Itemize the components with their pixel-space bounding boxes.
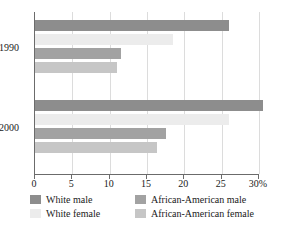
bar xyxy=(35,48,121,59)
legend-item[interactable]: White male xyxy=(30,194,135,205)
x-axis-tick-10: 10 xyxy=(104,178,114,189)
y-axis-label-2000: 2000 xyxy=(0,122,19,133)
legend-item[interactable]: White female xyxy=(30,208,135,219)
bar xyxy=(35,128,166,139)
legend-swatch-icon xyxy=(30,209,41,218)
legend-swatch-icon xyxy=(135,209,146,218)
x-axis-tick-0: 0 xyxy=(32,178,37,189)
legend-label: White female xyxy=(46,208,100,219)
legend-swatch-icon xyxy=(135,195,146,204)
chart-legend: White maleAfrican-American maleWhite fem… xyxy=(30,192,270,220)
bar-group-2000 xyxy=(35,100,259,156)
chart-container: 19902000 051015202530% White maleAfrican… xyxy=(0,0,281,227)
x-axis-tick-15: 15 xyxy=(141,178,151,189)
x-axis-tick-20: 20 xyxy=(178,178,188,189)
plot-area xyxy=(34,12,259,175)
chart-title xyxy=(0,0,281,2)
bar xyxy=(35,34,173,45)
legend-label: African-American male xyxy=(151,194,246,205)
bar xyxy=(35,100,263,111)
legend-label: African-American female xyxy=(151,208,254,219)
legend-item[interactable]: African-American female xyxy=(135,208,270,219)
bar xyxy=(35,114,229,125)
legend-item[interactable]: African-American male xyxy=(135,194,270,205)
bar xyxy=(35,62,117,73)
bar xyxy=(35,20,229,31)
x-axis-tick-25: 25 xyxy=(216,178,226,189)
bar xyxy=(35,142,157,153)
x-axis-tick-5: 5 xyxy=(69,178,74,189)
bar-group-1990 xyxy=(35,20,259,76)
y-axis-label-1990: 1990 xyxy=(0,42,19,53)
legend-swatch-icon xyxy=(30,195,41,204)
legend-label: White male xyxy=(46,194,92,205)
x-axis-tick-30: 30% xyxy=(249,178,267,189)
gridline xyxy=(259,12,260,174)
